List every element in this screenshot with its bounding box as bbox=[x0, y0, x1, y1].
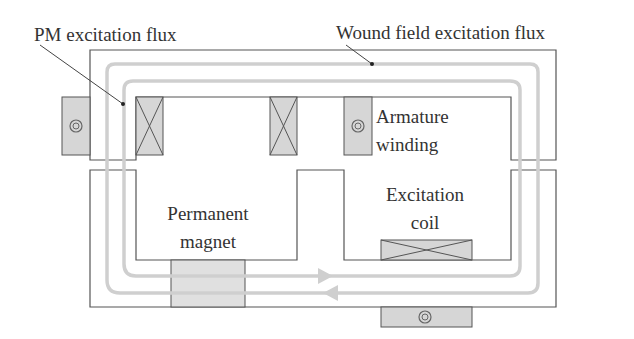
coil-x-middle bbox=[270, 97, 297, 155]
excitation-label-2: coil bbox=[411, 212, 440, 233]
bottom-coil-dot bbox=[381, 307, 472, 327]
excitation-label-1: Excitation bbox=[386, 184, 465, 205]
excitation-coil bbox=[381, 240, 472, 260]
pm-label-2: magnet bbox=[180, 231, 237, 252]
left-outer-coil-dot bbox=[62, 97, 90, 155]
armature-winding-coil bbox=[344, 97, 372, 155]
machine-diagram: PM excitation flux Wound field excitatio… bbox=[0, 0, 634, 339]
bottom-core bbox=[90, 170, 556, 307]
pm-label-1: Permanent bbox=[167, 203, 249, 224]
pm-flux-label: PM excitation flux bbox=[34, 24, 177, 45]
coil-x-left bbox=[136, 97, 163, 155]
permanent-magnet bbox=[171, 260, 245, 307]
armature-label-1: Armature bbox=[376, 106, 449, 127]
wound-flux-label: Wound field excitation flux bbox=[336, 22, 546, 43]
armature-label-2: winding bbox=[376, 134, 439, 155]
